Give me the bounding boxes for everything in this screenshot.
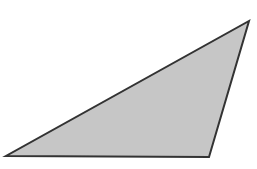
triangle-shape: [6, 21, 249, 157]
triangle-diagram: [0, 0, 257, 169]
